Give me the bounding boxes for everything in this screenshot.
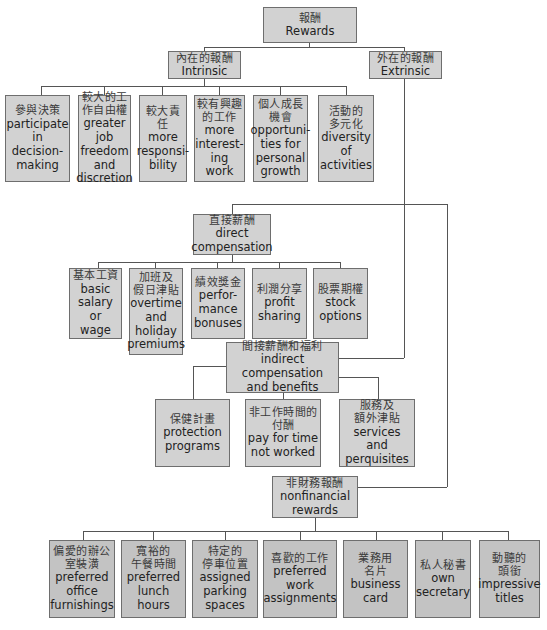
node-label-zh: 額外津貼 xyxy=(354,412,400,425)
node-label-en: sharing xyxy=(258,310,301,324)
node-more-interesting-work: 較有興趣的工作moreinterest-ing work xyxy=(194,95,245,182)
node-own-secretary: 私人秘書ownsecretary xyxy=(415,540,471,618)
node-diversity-of-activities: 活動的多元化diversityofactivities xyxy=(318,95,374,182)
connector xyxy=(508,531,509,540)
node-label-en: titles xyxy=(495,592,523,606)
node-participate-decision-making: 參與決策participatein decision-making xyxy=(5,95,70,182)
node-label-en: participate xyxy=(6,118,68,132)
node-label-en: perquisites xyxy=(345,453,408,467)
connector xyxy=(232,255,233,262)
node-label-en: wage xyxy=(80,324,111,338)
node-label-en: Extrinsic xyxy=(381,65,430,79)
node-label-zh: 較大責任 xyxy=(141,105,185,131)
node-label-en: preferred xyxy=(55,571,108,585)
node-protection-programs: 保健計畫protectionprograms xyxy=(155,399,230,467)
node-label-zh: 喜歡的工作 xyxy=(271,552,329,565)
connector xyxy=(204,78,205,86)
node-label-en: making xyxy=(16,159,59,173)
node-label-zh: 服務及 xyxy=(360,399,395,412)
node-label-en: interest- xyxy=(195,138,243,152)
connector xyxy=(41,86,42,95)
node-label-en: responsi- xyxy=(137,145,190,159)
node-label-en: of xyxy=(340,145,351,159)
node-label-en: overtime xyxy=(130,297,182,311)
node-label-en: ing work xyxy=(196,152,243,180)
node-business-card: 業務用名片businesscard xyxy=(343,540,408,618)
node-label-zh: 多元化 xyxy=(329,118,364,131)
node-label-en: holiday xyxy=(135,325,177,339)
node-work-assignments: 喜歡的工作preferredworkassignments xyxy=(263,540,337,618)
node-label-en: assignments xyxy=(264,592,337,606)
node-label-zh: 偏愛的辦公 xyxy=(53,545,111,558)
node-label-en: rewards xyxy=(292,504,338,518)
connector xyxy=(83,531,84,540)
node-label-zh: 加班及 xyxy=(139,271,174,284)
connector xyxy=(339,358,404,359)
node-label-en: ties for xyxy=(260,138,300,152)
node-label-zh: 動聽的 xyxy=(492,552,527,565)
node-label-zh: 寬裕的 xyxy=(136,545,171,558)
node-label-zh: 個人成長 xyxy=(258,98,304,111)
connector xyxy=(315,518,316,531)
node-rewards: 報酬Rewards xyxy=(263,7,357,43)
node-label-en: bonuses xyxy=(194,317,242,331)
node-label-en: Rewards xyxy=(286,25,335,39)
connector xyxy=(219,86,220,95)
node-label-zh: 較有興趣 xyxy=(197,98,243,111)
connector xyxy=(232,204,447,205)
node-label-en: work xyxy=(286,579,314,593)
node-label-zh: 內在的報酬 xyxy=(176,52,234,65)
node-label-en: card xyxy=(363,592,388,606)
node-pay-for-time-not-worked: 非工作時間的付酬pay for timenot worked xyxy=(245,399,321,467)
node-performance-bonuses: 績效獎金perfor-mancebonuses xyxy=(191,268,245,339)
node-label-zh: 較大的工 xyxy=(82,91,128,104)
node-label-en: discretion xyxy=(76,172,132,186)
node-label-en: preferred xyxy=(273,565,326,579)
node-label-zh: 私人秘書 xyxy=(420,559,466,572)
node-label-zh: 外在的報酬 xyxy=(377,52,435,65)
node-label-en: programs xyxy=(165,440,220,454)
node-label-en: parking xyxy=(203,585,247,599)
node-stock-options: 股票期權stockoptions xyxy=(313,268,368,339)
connector xyxy=(442,531,443,540)
node-label-en: furnishings xyxy=(50,599,113,613)
node-label-zh: 業務用 xyxy=(358,552,393,565)
connector xyxy=(300,531,301,540)
node-label-en: activities xyxy=(320,159,372,173)
connector xyxy=(193,366,226,367)
node-label-en: more xyxy=(205,124,235,138)
connector xyxy=(346,86,347,95)
node-label-zh: 非工作時間的 xyxy=(249,406,318,419)
node-label-en: opportuni- xyxy=(251,124,311,138)
connector xyxy=(447,204,448,487)
node-label-en: in decision- xyxy=(7,131,68,159)
connector xyxy=(376,531,377,540)
node-label-zh: 保健計畫 xyxy=(170,413,216,426)
connector xyxy=(358,487,447,488)
node-label-en: not worked xyxy=(251,446,315,460)
node-impressive-titles: 動聽的頭銜impressivetitles xyxy=(479,540,540,618)
node-lunch-hours: 寬裕的午餐時間preferredlunch hours xyxy=(121,540,186,618)
connector xyxy=(204,47,405,48)
connector xyxy=(232,204,233,214)
connector xyxy=(83,531,508,532)
node-label-en: Intrinsic xyxy=(182,65,228,79)
node-label-zh: 基本工資 xyxy=(73,269,119,282)
node-label-en: salary or xyxy=(71,296,120,324)
node-label-en: pay for time xyxy=(248,432,318,446)
node-label-en: compensation xyxy=(191,241,272,255)
node-greater-job-freedom: 較大的工作自由權greater jobfreedomanddiscretion xyxy=(78,95,131,182)
node-label-en: diversity xyxy=(321,131,371,145)
node-label-en: premiums xyxy=(127,338,185,352)
node-services-perquisites: 服務及額外津貼services andperquisites xyxy=(339,399,415,467)
node-office-furnishings: 偏愛的辦公室裝潢preferredofficefurnishings xyxy=(49,540,115,618)
connector xyxy=(339,377,378,378)
node-label-en: services and xyxy=(341,426,413,454)
node-label-en: growth xyxy=(260,165,300,179)
node-label-en: direct xyxy=(216,227,249,241)
node-label-en: more xyxy=(148,131,178,145)
node-label-en: assigned xyxy=(199,571,250,585)
node-indirect-compensation: 間接薪酬和福利indirect compensationand benefits xyxy=(226,342,339,393)
node-label-en: profit xyxy=(264,296,295,310)
node-more-responsibility: 較大責任moreresponsi-bility xyxy=(139,95,187,182)
